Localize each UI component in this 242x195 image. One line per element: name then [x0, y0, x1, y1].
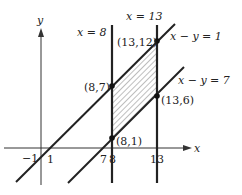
diagram-canvas: x y x = 8 x = 13 x − y = 1 x − y = 7 (13… [0, 0, 242, 195]
tick-7: 7 [100, 153, 107, 166]
shaded-region [112, 41, 157, 138]
tick-13: 13 [150, 153, 164, 166]
label-x-minus-y-equals-7: x − y = 7 [178, 74, 230, 87]
label-point-13-12: (13,12) [117, 36, 157, 49]
y-axis-arrow-icon [38, 28, 44, 37]
point-8-1 [109, 135, 115, 141]
tick-neg1: −1 [22, 152, 38, 165]
label-point-8-7: (8,7) [84, 81, 110, 94]
label-x-minus-y-equals-1: x − y = 1 [170, 30, 222, 43]
x-axis-arrow-icon [183, 145, 192, 151]
tick-1: 1 [47, 153, 54, 166]
point-13-6 [154, 93, 160, 99]
x-axis-label: x [194, 142, 201, 155]
label-point-13-6: (13,6) [161, 94, 194, 107]
label-x-equals-8: x = 8 [77, 26, 106, 39]
y-axis-label: y [36, 14, 44, 27]
tick-8: 8 [109, 153, 116, 166]
label-point-8-1: (8,1) [116, 135, 142, 148]
label-x-equals-13: x = 13 [126, 10, 162, 23]
